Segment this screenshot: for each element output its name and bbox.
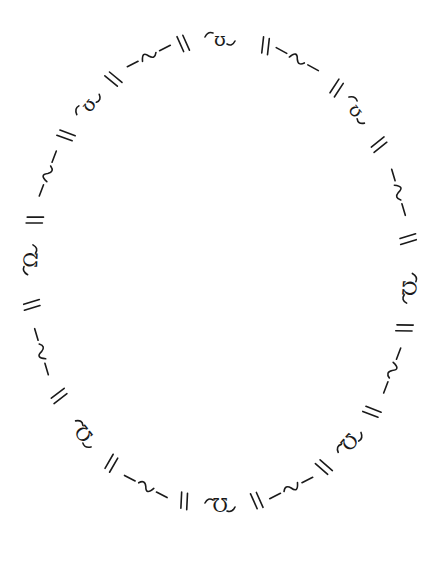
oval-motif-ring: ʊʊΩΩΩΩΩʊ	[19, 28, 422, 516]
curl-glyph-mark: ʊ	[339, 92, 375, 129]
curl-glyph-mark: Ω	[65, 415, 101, 452]
curl-glyph-mark: ʊ	[205, 28, 235, 50]
double-slash-mark	[370, 137, 388, 152]
curl-glyph-mark: Ω	[331, 424, 367, 461]
double-slash-mark	[177, 35, 189, 53]
double-slash-mark	[400, 234, 417, 245]
svg-text:ʊ: ʊ	[214, 28, 226, 50]
double-slash-mark	[26, 214, 43, 226]
double-slash-mark	[251, 492, 263, 510]
dashed-wave-mark	[126, 42, 172, 69]
svg-text:Ω: Ω	[336, 429, 363, 455]
dashed-wave-mark	[389, 168, 409, 216]
svg-text:ʊ: ʊ	[76, 93, 100, 116]
dashed-wave-mark	[268, 475, 314, 502]
dashed-wave-mark	[31, 328, 51, 376]
double-slash-mark	[396, 322, 413, 334]
double-slash-mark	[363, 404, 381, 420]
dashed-wave-mark	[36, 150, 59, 197]
dashed-wave-mark	[275, 44, 320, 73]
double-slash-mark	[57, 127, 75, 143]
curl-glyph-mark: Ω	[398, 273, 422, 304]
curl-glyph-mark: Ω	[205, 494, 235, 516]
curl-glyph-mark: Ω	[19, 244, 42, 275]
double-slash-mark	[315, 458, 332, 476]
dashed-wave-mark	[123, 473, 169, 501]
svg-text:Ω: Ω	[398, 280, 421, 297]
double-slash-mark	[328, 79, 346, 97]
double-slash-mark	[105, 70, 122, 88]
double-slash-mark	[178, 492, 190, 510]
double-slash-mark	[50, 388, 68, 403]
double-slash-mark	[259, 37, 272, 55]
double-slash-mark	[103, 454, 120, 472]
svg-text:Ω: Ω	[19, 251, 42, 268]
curl-glyph-mark: ʊ	[70, 86, 106, 123]
svg-text:Ω: Ω	[70, 421, 97, 447]
dashed-wave-mark	[381, 347, 404, 394]
oval-drawing: ʊʊΩΩΩΩΩʊ	[0, 0, 440, 569]
svg-text:Ω: Ω	[212, 494, 228, 516]
double-slash-mark	[23, 300, 40, 311]
